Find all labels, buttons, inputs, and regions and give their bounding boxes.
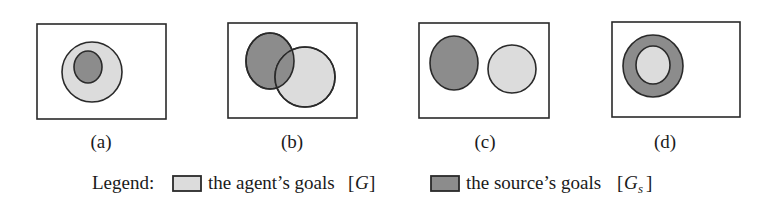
- legend-prefix: Legend:: [92, 172, 154, 193]
- goal-relations-figure: (a) (b) (c) (d) Legend: the agent’s goal…: [0, 0, 766, 216]
- panel-d: (d): [612, 22, 740, 153]
- panel-b: (b): [228, 23, 357, 153]
- legend-item-source-goals: the source’s goals [ G s ]: [431, 172, 652, 196]
- legend-symbol-close-agent: ]: [369, 172, 375, 193]
- panel-b-caption: (b): [281, 131, 303, 153]
- legend-symbol-agent: G: [355, 172, 369, 193]
- legend-item-agent-goals: the agent’s goals [ G ]: [173, 172, 375, 193]
- legend-label-source-goals: the source’s goals: [466, 172, 601, 193]
- legend-swatch-source-goals: [431, 176, 459, 191]
- legend-label-agent-goals: the agent’s goals: [208, 172, 335, 193]
- legend-symbol-close-source: ]: [646, 172, 652, 193]
- panel-a-caption: (a): [90, 131, 111, 153]
- legend-symbol-source: G: [624, 172, 638, 193]
- legend-symbol-open-source: [: [617, 172, 623, 193]
- legend-symbol-open-agent: [: [348, 172, 354, 193]
- panel-a-source-goals-set: [74, 51, 102, 83]
- panel-c-agent-goals-set: [488, 45, 536, 93]
- panel-d-caption: (d): [654, 131, 676, 153]
- panel-c: (c): [419, 23, 549, 153]
- legend-symbol-source-subscript: s: [638, 181, 643, 196]
- panel-a: (a): [37, 24, 166, 153]
- panel-c-caption: (c): [474, 131, 495, 153]
- panel-c-source-goals-set: [430, 36, 478, 90]
- legend-swatch-agent-goals: [173, 176, 201, 191]
- panel-d-agent-goals-set: [636, 46, 670, 84]
- legend: Legend: the agent’s goals [ G ] the sour…: [92, 172, 652, 196]
